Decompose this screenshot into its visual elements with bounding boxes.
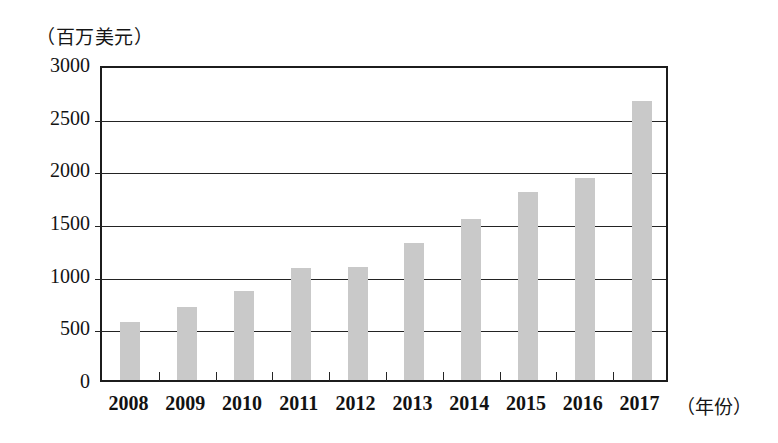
y-axis-unit-label: （百万美元） <box>36 22 153 49</box>
y-tick-label: 500 <box>0 318 90 338</box>
y-tick-mark <box>95 226 102 227</box>
x-axis-unit-label: （年份） <box>676 392 752 419</box>
x-tick-mark <box>443 372 444 381</box>
y-tick-label: 1500 <box>0 213 90 233</box>
bar-2009 <box>177 307 197 380</box>
plot-area <box>100 66 668 382</box>
y-tick-mark <box>95 173 102 174</box>
x-tick-mark <box>613 372 614 381</box>
bar-2014 <box>461 219 481 380</box>
x-tick-mark <box>272 372 273 381</box>
bar-2012 <box>348 267 368 380</box>
x-tick-mark <box>386 372 387 381</box>
gridline <box>102 121 666 122</box>
y-tick-label: 2500 <box>0 108 90 128</box>
y-tick-label: 1000 <box>0 266 90 286</box>
bar-2015 <box>518 192 538 380</box>
x-tick-label-2017: 2017 <box>600 392 680 415</box>
bar-chart: （百万美元） 050010001500200025003000 20082009… <box>0 0 778 443</box>
x-tick-mark <box>556 372 557 381</box>
bar-2017 <box>632 101 652 380</box>
y-tick-label: 0 <box>0 371 90 391</box>
x-tick-mark <box>159 372 160 381</box>
y-tick-mark <box>95 331 102 332</box>
x-tick-mark <box>329 372 330 381</box>
bar-2011 <box>291 268 311 380</box>
bar-2016 <box>575 178 595 380</box>
y-tick-mark <box>95 279 102 280</box>
y-tick-mark <box>95 121 102 122</box>
bar-2008 <box>120 322 140 380</box>
bar-2013 <box>404 243 424 380</box>
gridline <box>102 173 666 174</box>
y-tick-label: 2000 <box>0 160 90 180</box>
x-tick-mark <box>216 372 217 381</box>
y-tick-label: 3000 <box>0 55 90 75</box>
x-tick-mark <box>500 372 501 381</box>
bar-2010 <box>234 291 254 380</box>
